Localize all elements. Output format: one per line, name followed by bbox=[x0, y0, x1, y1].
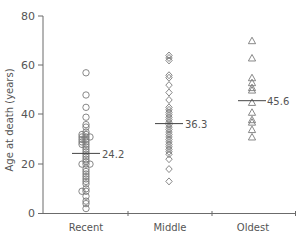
diamond-marker-icon bbox=[166, 146, 172, 153]
mean-label-middle: 36.3 bbox=[185, 119, 207, 130]
y-tick-label: 0 bbox=[28, 207, 35, 220]
diamond-marker-icon bbox=[166, 109, 172, 116]
dot-plot-chart: 80 60 40 20 0 Age at death (years) Recen… bbox=[0, 0, 298, 240]
diamond-marker-icon bbox=[166, 111, 172, 118]
circle-marker-icon bbox=[83, 114, 89, 120]
y-axis-title: Age at death (years) bbox=[4, 68, 15, 171]
diamond-marker-icon bbox=[166, 131, 172, 138]
circle-marker-icon bbox=[83, 205, 89, 211]
diamond-marker-icon bbox=[166, 104, 172, 111]
diamond-marker-icon bbox=[166, 54, 172, 61]
x-label-middle: Middle bbox=[153, 222, 186, 233]
diamond-marker-icon bbox=[166, 126, 172, 133]
x-label-recent: Recent bbox=[69, 222, 104, 233]
diamond-marker-icon bbox=[166, 119, 172, 126]
diamond-marker-icon bbox=[166, 138, 172, 145]
diamond-marker-icon bbox=[166, 96, 172, 103]
y-tick-label: 80 bbox=[21, 10, 35, 23]
diamond-marker-icon bbox=[166, 148, 172, 155]
diamond-marker-icon bbox=[166, 178, 172, 185]
diamond-marker-icon bbox=[166, 72, 172, 79]
diamond-marker-icon bbox=[166, 124, 172, 131]
diamond-marker-icon bbox=[166, 151, 172, 158]
circle-marker-icon bbox=[83, 70, 89, 76]
mean-label-oldest: 45.6 bbox=[267, 96, 289, 107]
y-tick-label: 20 bbox=[21, 158, 35, 171]
diamond-marker-icon bbox=[166, 129, 172, 136]
diamond-marker-icon bbox=[166, 143, 172, 150]
triangle-marker-icon bbox=[248, 133, 255, 140]
triangle-marker-icon bbox=[248, 87, 255, 94]
diamond-marker-icon bbox=[166, 52, 172, 59]
diamond-marker-icon bbox=[166, 106, 172, 113]
diamond-marker-icon bbox=[166, 141, 172, 148]
diamond-marker-icon bbox=[166, 57, 172, 64]
y-tick-label: 60 bbox=[21, 59, 35, 72]
diamond-marker-icon bbox=[166, 156, 172, 163]
y-axis-ticks: 80 60 40 20 0 bbox=[21, 10, 43, 220]
x-label-oldest: Oldest bbox=[237, 222, 269, 233]
diamond-marker-icon bbox=[166, 82, 172, 89]
circle-marker-icon bbox=[83, 104, 89, 110]
diamond-marker-icon bbox=[166, 89, 172, 96]
triangle-marker-icon bbox=[248, 119, 255, 126]
triangle-marker-icon bbox=[248, 99, 255, 106]
diamond-marker-icon bbox=[166, 114, 172, 121]
circle-marker-icon bbox=[83, 92, 89, 98]
diamond-marker-icon bbox=[166, 133, 172, 140]
chart-svg: 80 60 40 20 0 Age at death (years) Recen… bbox=[0, 0, 298, 240]
data-points bbox=[79, 37, 256, 212]
triangle-marker-icon bbox=[248, 109, 255, 116]
diamond-marker-icon bbox=[166, 74, 172, 81]
mean-label-recent: 24.2 bbox=[102, 149, 124, 160]
diamond-marker-icon bbox=[166, 166, 172, 173]
diamond-marker-icon bbox=[166, 136, 172, 143]
diamond-marker-icon bbox=[166, 116, 172, 123]
y-tick-label: 40 bbox=[21, 108, 35, 121]
diamond-marker-icon bbox=[166, 121, 172, 128]
triangle-marker-icon bbox=[248, 37, 255, 44]
triangle-marker-icon bbox=[248, 54, 255, 61]
triangle-marker-icon bbox=[248, 126, 255, 133]
